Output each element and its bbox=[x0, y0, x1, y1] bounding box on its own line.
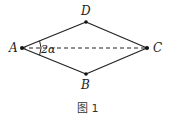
vertex-A bbox=[20, 46, 24, 50]
edge-DC bbox=[86, 22, 147, 48]
label-B: B bbox=[80, 78, 90, 92]
rhombus-diagram: A B C D 2α 图 1 bbox=[0, 0, 172, 123]
vertex-D bbox=[84, 20, 88, 24]
edge-CB bbox=[86, 48, 147, 74]
angle-label: 2α bbox=[40, 43, 56, 56]
vertex-B bbox=[84, 72, 88, 76]
vertex-C bbox=[145, 46, 149, 50]
label-A: A bbox=[8, 41, 18, 55]
figure-caption: 图 1 bbox=[77, 102, 99, 115]
label-D: D bbox=[80, 4, 91, 18]
label-C: C bbox=[153, 41, 162, 55]
